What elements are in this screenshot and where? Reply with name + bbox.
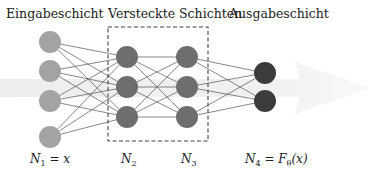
label-n3: N3: [181, 152, 197, 168]
connection-edge: [187, 101, 265, 117]
n2-sub: 2: [132, 159, 137, 168]
hidden-layer-1: [116, 46, 138, 128]
n3-sub: 3: [192, 159, 197, 168]
neuron-node: [254, 90, 276, 112]
output-layer-title: Ausgabeschicht: [229, 6, 329, 21]
connection-edge: [50, 101, 127, 117]
neuron-node: [39, 31, 61, 53]
connection-edge: [50, 42, 127, 57]
neuron-node: [39, 90, 61, 112]
n4-rest: = F: [261, 152, 287, 166]
neuron-node: [176, 76, 198, 98]
n4-rest2: (x): [291, 152, 307, 166]
input-layer-title: Eingabeschicht: [6, 6, 104, 21]
neuron-node: [116, 46, 138, 68]
label-n2: N2: [121, 152, 137, 168]
n2-base: N: [121, 152, 132, 166]
neuron-node: [116, 106, 138, 128]
connection-edge: [187, 57, 265, 73]
neuron-node: [176, 106, 198, 128]
n1-base: N: [30, 152, 41, 166]
neuron-node: [39, 126, 61, 148]
n4-base: N: [245, 152, 256, 166]
hidden-layers-title: Versteckte Schichten: [108, 6, 242, 21]
hidden-layer-2: [176, 46, 198, 128]
n1-rest: = x: [46, 152, 70, 166]
neuron-node: [39, 60, 61, 82]
neuron-node: [254, 62, 276, 84]
label-n1: N1 = x: [30, 152, 70, 168]
neuron-node: [116, 76, 138, 98]
label-n4: N4 = Fθ(x): [245, 152, 308, 168]
neuron-node: [176, 46, 198, 68]
connection-edge: [50, 117, 127, 137]
n3-base: N: [181, 152, 192, 166]
